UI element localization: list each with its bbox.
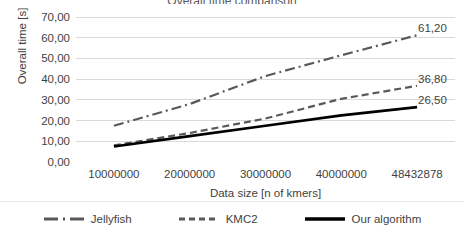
chart-legend: JellyfishKMC2Our algorithm xyxy=(0,208,464,230)
legend-item-kmc2[interactable]: KMC2 xyxy=(178,213,258,225)
legend-swatch-dashed-icon xyxy=(178,214,220,224)
x-axis-tick-label: 10000000 xyxy=(88,168,139,180)
x-axis-tick-labels: 1000000020000000300000004000000048432878 xyxy=(76,168,455,184)
y-axis-tick-label: 20,00 xyxy=(18,116,70,126)
legend-divider xyxy=(0,201,464,202)
data-label-our-algorithm: 26,50 xyxy=(418,94,447,106)
y-axis-tick-label: 10,00 xyxy=(18,136,70,146)
series-line-kmc2 xyxy=(114,86,417,146)
legend-swatch-dash-dot-icon xyxy=(43,214,85,224)
data-label-kmc2: 36,80 xyxy=(418,73,447,85)
x-axis-tick-label: 30000000 xyxy=(240,168,291,180)
y-axis-tick-label: 60,00 xyxy=(18,33,70,43)
x-axis-tick-label: 40000000 xyxy=(316,168,367,180)
y-axis-tick-label: 30,00 xyxy=(18,95,70,105)
x-axis-title: Data size [n of kmers] xyxy=(76,187,455,199)
legend-item-our-algorithm[interactable]: Our algorithm xyxy=(304,213,422,225)
legend-label: KMC2 xyxy=(226,213,258,225)
x-axis-tick-label: 20000000 xyxy=(164,168,215,180)
chart-container: Overall time comparison Overall time [s]… xyxy=(0,0,464,233)
x-axis-tick-label: 48432878 xyxy=(392,168,443,180)
y-axis-tick-labels: 70,0060,0050,0040,0030,0020,0010,000,00 xyxy=(12,0,70,233)
plot-svg xyxy=(76,17,455,162)
y-axis-tick-label: 40,00 xyxy=(18,74,70,84)
legend-item-jellyfish[interactable]: Jellyfish xyxy=(43,213,132,225)
legend-label: Jellyfish xyxy=(91,213,132,225)
data-label-jellyfish: 61,20 xyxy=(418,22,447,34)
y-axis-tick-label: 50,00 xyxy=(18,53,70,63)
y-axis-tick-label: 70,00 xyxy=(18,12,70,22)
plot-area xyxy=(76,17,455,162)
y-axis-tick-label: 0,00 xyxy=(18,157,70,167)
legend-swatch-solid-icon xyxy=(304,214,346,224)
legend-label: Our algorithm xyxy=(352,213,422,225)
